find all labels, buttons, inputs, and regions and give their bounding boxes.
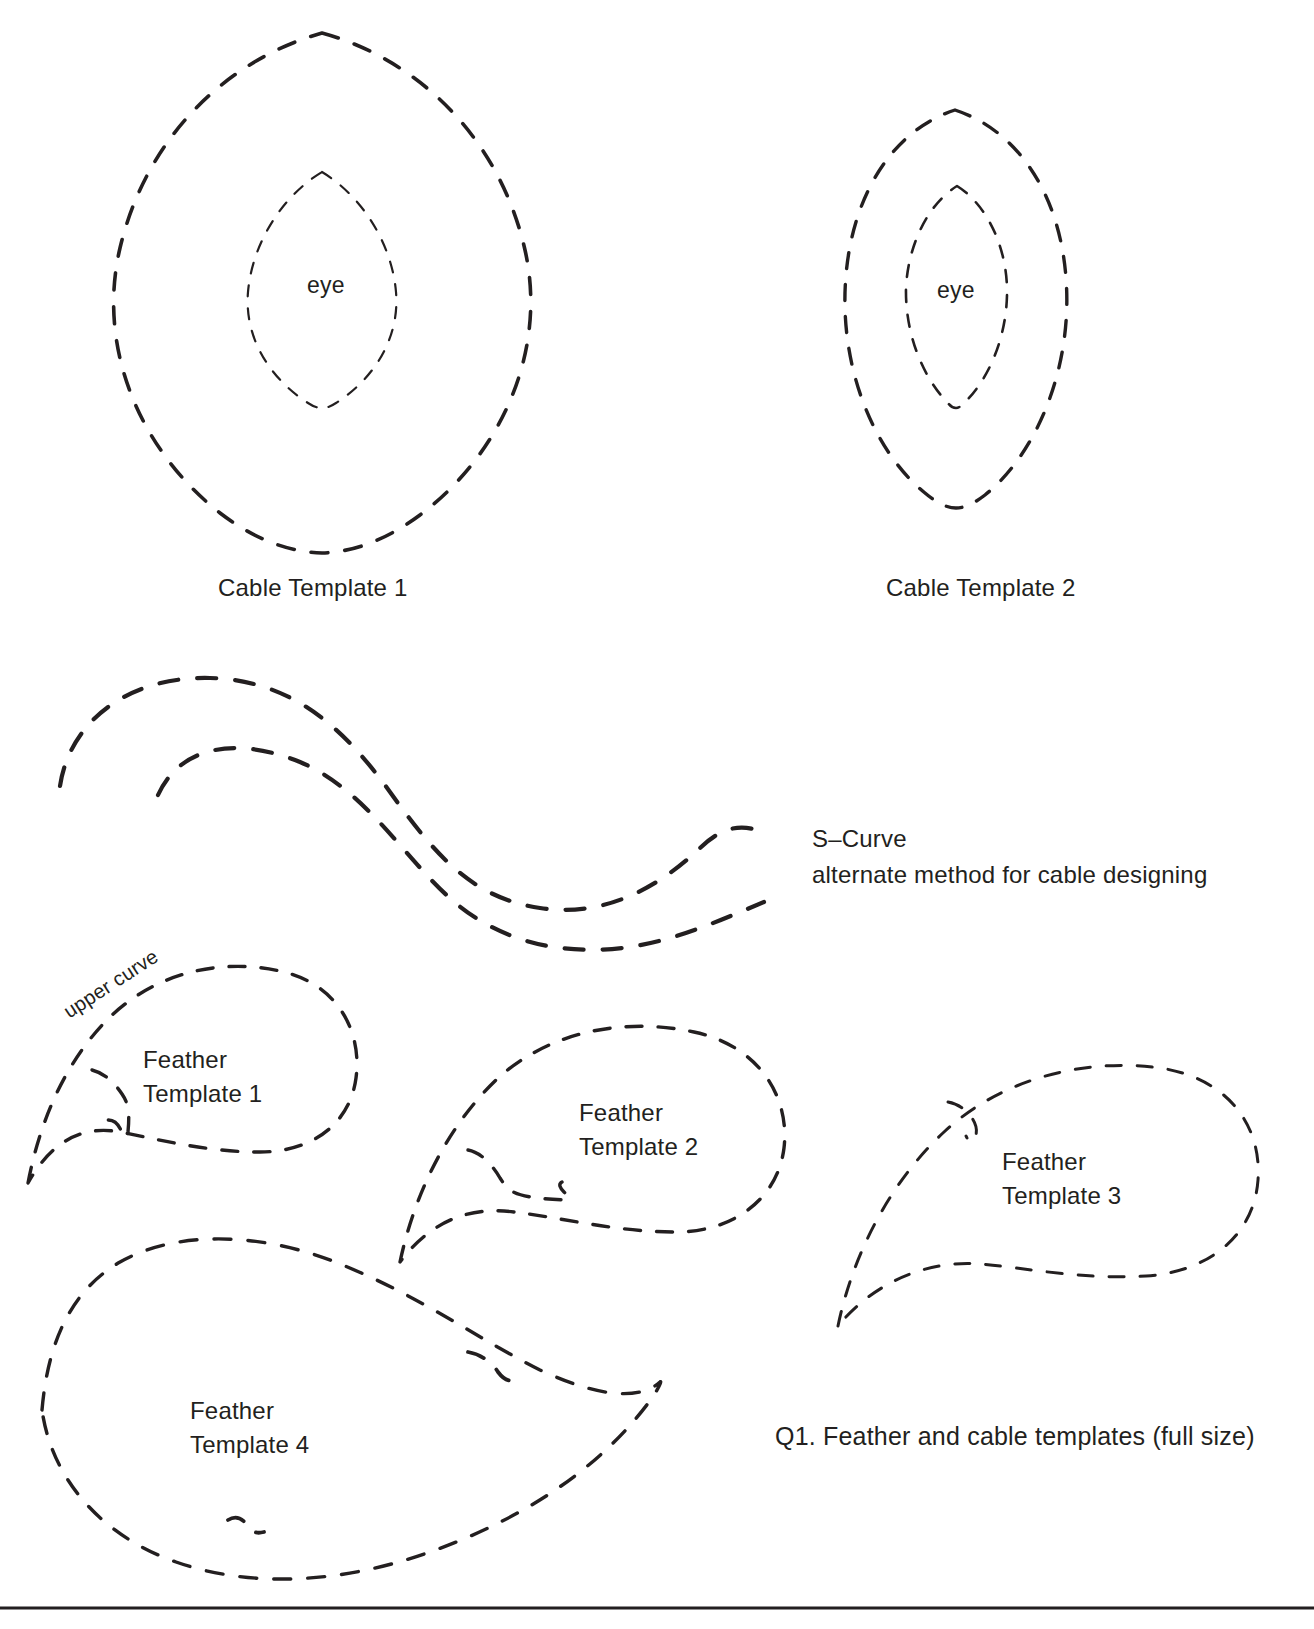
cable-template-2-eye-label: eye	[937, 277, 975, 304]
cable-template-1-label: Cable Template 1	[218, 575, 408, 600]
feather-template-4-lower-notch	[228, 1518, 264, 1533]
feather-template-3-label-line2: Template 3	[1002, 1179, 1121, 1213]
cable-template-1-eye-label: eye	[307, 272, 345, 299]
feather-template-4-inner-curve	[468, 1352, 520, 1381]
feather-template-2-label-line1: Feather	[579, 1096, 663, 1130]
template-artwork	[0, 0, 1314, 1629]
feather-template-4-outer-outline	[42, 1239, 661, 1579]
feather-template-1-label-line2: Template 1	[143, 1077, 262, 1111]
s-curve-main-line	[60, 678, 760, 910]
feather-template-1-label-line1: Feather	[143, 1043, 227, 1077]
feather-template-4-label-line1: Feather	[190, 1394, 274, 1428]
cable-template-2-outer-outline	[845, 110, 1067, 508]
s-curve-subtitle: alternate method for cable designing	[812, 858, 1207, 893]
s-curve-upper-line	[158, 748, 764, 950]
feather-template-4-label-line2: Template 4	[190, 1428, 309, 1462]
page-caption: Q1. Feather and cable templates (full si…	[775, 1422, 1255, 1451]
feather-template-2-inner-curve	[468, 1150, 569, 1200]
feather-template-2-label-line2: Template 2	[579, 1130, 698, 1164]
feather-template-3-label-line1: Feather	[1002, 1145, 1086, 1179]
pattern-page: eye eye Cable Template 1 Cable Template …	[0, 0, 1314, 1629]
cable-template-2-label: Cable Template 2	[886, 575, 1076, 600]
feather-template-1-inner-curve	[92, 1070, 129, 1138]
s-curve-title: S–Curve	[812, 822, 907, 857]
